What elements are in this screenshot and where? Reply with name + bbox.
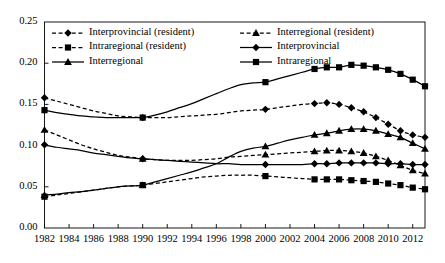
- y-axis-tick-label: 0.25: [0, 15, 38, 26]
- legend-item-interprovincial-resident: [52, 29, 84, 36]
- y-axis-tick-label: 0.20: [0, 56, 38, 67]
- y-axis-tick-label: 0.15: [0, 97, 38, 108]
- legend-label: Interregional: [89, 55, 143, 66]
- chart-canvas: [0, 0, 445, 263]
- legend-item-interprovincial: [240, 44, 272, 51]
- migration-rate-line-chart: 0.000.050.100.150.200.251982198419861988…: [0, 0, 445, 263]
- legend-item-interregional: [52, 58, 84, 65]
- legend-label: Intraregional: [277, 55, 331, 66]
- legend-label: Intraregional (resident): [89, 40, 186, 51]
- series-intraregional-resident: [41, 173, 428, 200]
- plot-frame: [45, 22, 426, 228]
- series-interregional: [41, 125, 429, 198]
- series-interregional-resident: [41, 126, 429, 176]
- legend-label: Interprovincial (resident): [89, 26, 194, 37]
- y-axis-tick-label: 0.05: [0, 180, 38, 191]
- y-axis-tick-label: 0.10: [0, 139, 38, 150]
- x-axis-tick-label: 2012: [393, 233, 433, 244]
- legend-item-interregional-resident: [240, 29, 272, 36]
- legend-label: Interregional (resident): [277, 26, 374, 37]
- legend-item-intraregional-resident: [52, 44, 84, 50]
- legend-label: Interprovincial: [277, 40, 339, 51]
- y-axis-tick-label: 0.00: [0, 221, 38, 232]
- legend-item-intraregional: [240, 59, 272, 65]
- axis-ticks: [45, 63, 413, 228]
